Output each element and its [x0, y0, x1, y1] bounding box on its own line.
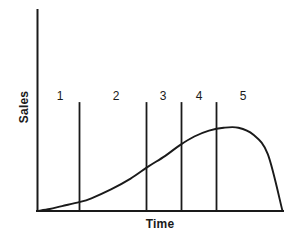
stage-label-1: 1	[51, 89, 69, 103]
stage-label-3: 3	[154, 89, 172, 103]
stage-label-5: 5	[234, 89, 252, 103]
stage-label-2: 2	[107, 89, 125, 103]
product-life-cycle-chart: Sales Time 1 2 3 4 5	[0, 0, 293, 237]
x-axis-label: Time	[120, 217, 200, 231]
sales-curve	[38, 127, 283, 211]
y-axis-label: Sales	[3, 83, 45, 131]
stage-label-4: 4	[190, 89, 208, 103]
